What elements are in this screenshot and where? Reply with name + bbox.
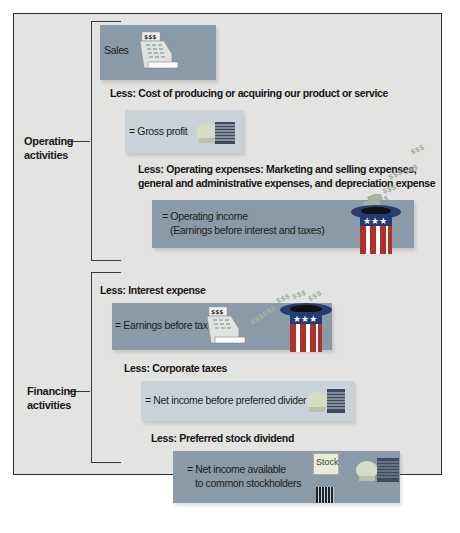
- net-income-common-label: = Net income available to common stockho…: [187, 462, 301, 490]
- operating-income-line2: (Earnings before interest and taxes): [162, 223, 324, 237]
- sales-label: Sales: [104, 43, 129, 57]
- money-hand-icon: [191, 114, 237, 148]
- financing-activities-label: Financing activities: [27, 384, 76, 412]
- operating-label-line1: Operating: [24, 134, 73, 148]
- svg-text:★★★: ★★★: [363, 216, 387, 226]
- financing-bracket: [91, 272, 121, 463]
- uncle-sam-hat-icon: ★★★: [348, 194, 404, 258]
- gross-profit-box: = Gross profit: [125, 110, 243, 153]
- operating-label-line2: activities: [24, 148, 73, 162]
- stock-bars-icon: [316, 487, 334, 503]
- svg-text:★★★: ★★★: [293, 314, 317, 324]
- net-income-before-preferred-label: = Net income before preferred dividends: [145, 393, 319, 407]
- svg-text:$$$: $$$: [409, 143, 426, 156]
- operating-income-label: = Operating income (Earnings before inte…: [162, 209, 324, 237]
- cash-register-icon-2: $$$: [203, 303, 251, 351]
- svg-text:$$$: $$$: [144, 33, 157, 40]
- cash-register-icon: $$$: [134, 28, 182, 76]
- less-cost-of-goods: Less: Cost of producing or acquiring our…: [110, 86, 388, 100]
- svg-text:$$$: $$$: [403, 163, 420, 176]
- gross-profit-label: = Gross profit: [129, 124, 187, 138]
- net-income-common-line1: = Net income available: [187, 462, 301, 476]
- less-corporate-taxes: Less: Corporate taxes: [124, 361, 227, 375]
- stock-certificate-icon: Stock: [313, 453, 339, 475]
- less-preferred-stock-dividend: Less: Preferred stock dividend: [151, 431, 294, 445]
- svg-text:$$$: $$$: [387, 168, 404, 181]
- svg-text:$$$: $$$: [211, 308, 224, 315]
- operating-activities-label: Operating activities: [24, 134, 73, 162]
- financing-label-line2: activities: [27, 398, 76, 412]
- money-hand-icon-3: [351, 452, 399, 488]
- less-interest-expense: Less: Interest expense: [100, 283, 206, 297]
- net-income-common-line2: to common stockholders: [187, 476, 301, 490]
- stock-icon-label: Stock: [316, 457, 339, 467]
- financing-label-line1: Financing: [27, 384, 76, 398]
- net-income-before-preferred-box: = Net income before preferred dividends: [141, 381, 354, 421]
- money-hand-icon-2: [301, 385, 347, 417]
- sales-box: Sales $$$: [100, 25, 216, 80]
- uncle-sam-hat-icon-2: ★★★: [276, 300, 336, 364]
- operating-income-line1: = Operating income: [162, 209, 324, 223]
